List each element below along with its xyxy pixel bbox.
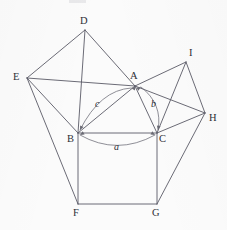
vertex-label-f: F (73, 208, 79, 219)
vertex-label-c: C (159, 134, 166, 145)
edge-A-B (78, 86, 135, 133)
polygon-edges (27, 30, 205, 204)
vertex-label-e: E (13, 72, 19, 83)
edge-A-D (85, 30, 135, 86)
edge-H-G (157, 113, 205, 204)
edge-A-I (135, 62, 186, 86)
side-label-a: a (114, 142, 119, 152)
vertex-label-b: B (67, 134, 74, 145)
arc-c (80, 88, 131, 130)
vertex-label-a: A (130, 71, 138, 82)
vertex-label-d: D (80, 16, 88, 27)
measure-arcs (80, 87, 161, 146)
side-label-b: b (151, 99, 156, 109)
figure-canvas (0, 0, 227, 230)
vertex-label-g: G (152, 208, 160, 219)
vertex-label-h: H (209, 113, 217, 124)
arc-b (141, 87, 159, 130)
vertex-label-i: I (189, 48, 193, 59)
side-label-c: c (95, 99, 99, 109)
edge-E-B (27, 78, 78, 133)
edge-D-E (27, 30, 85, 78)
edge-I-H (186, 62, 205, 113)
geometry-figure: ABCDEFGHI abc (0, 0, 227, 230)
